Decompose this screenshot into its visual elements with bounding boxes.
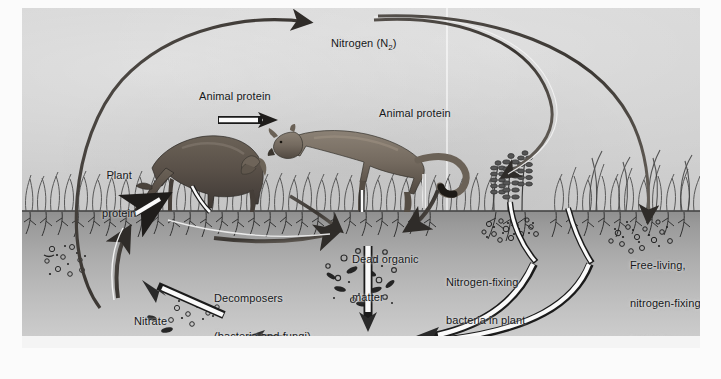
- arrow-n2-to-root-nodules: [374, 19, 552, 176]
- arrow-plant-to-herbivore-fill: [135, 199, 160, 214]
- label-root-nodule-bacteria: Nitrogen-fixing bacteria in plant root n…: [446, 251, 525, 348]
- label-root-nodule-line2: bacteria in plant: [446, 314, 525, 327]
- label-plant-protein: Plant protein: [102, 144, 136, 244]
- nitrogen-cycle-illustration: Nitrogen (N2) Animal protein Animal prot…: [22, 8, 700, 348]
- arrow-free-living-soil-stem: [568, 208, 592, 263]
- label-nitrate-line1: Nitrate: [134, 315, 193, 328]
- label-dead-organic-line2: matter: [352, 291, 419, 304]
- arrow-herbivore-to-carnivore: [218, 112, 278, 128]
- label-free-living-bacteria: Free-living, nitrogen-fixing bacteria: [630, 234, 700, 348]
- arrow-plant-to-dead-matter: [168, 220, 330, 236]
- label-free-living-line1: Free-living,: [630, 259, 700, 272]
- label-nitrogen-gas: Nitrogen (N2): [312, 24, 397, 62]
- plate-bottom-band: [22, 336, 700, 348]
- arrow-left-soil-stem: [192, 186, 210, 212]
- label-animal-protein-herbivore: Animal protein: [199, 90, 271, 103]
- label-decomposers-line1: Decomposers: [214, 292, 311, 305]
- arrow-plants-to-dead-matter-dark: [290, 196, 340, 230]
- label-free-living-line2: nitrogen-fixing: [630, 297, 700, 310]
- label-dead-organic-line1: Dead organic: [352, 253, 419, 266]
- label-plant-protein-line2: protein: [102, 207, 136, 220]
- label-root-nodule-line1: Nitrogen-fixing: [446, 276, 525, 289]
- label-plant-protein-line1: Plant: [102, 169, 136, 182]
- figure-page: Nitrogen (N2) Animal protein Animal prot…: [0, 0, 721, 379]
- label-animal-protein-carnivore: Animal protein: [379, 107, 451, 120]
- label-dead-organic-matter: Dead organic matter: [352, 228, 419, 328]
